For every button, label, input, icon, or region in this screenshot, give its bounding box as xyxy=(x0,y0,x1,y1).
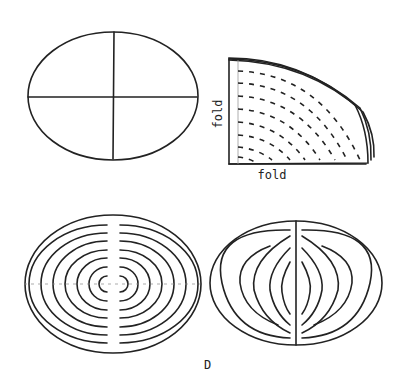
figure-caption: D xyxy=(204,358,211,372)
lens-cut-oval xyxy=(210,221,382,345)
concentric-cut-oval xyxy=(24,215,201,353)
oval-with-folds xyxy=(28,32,198,160)
fold-label-vertical: fold xyxy=(211,100,225,129)
folded-quarter: fold fold xyxy=(211,58,374,182)
fold-label-horizontal: fold xyxy=(258,168,287,182)
diagram-canvas: fold fold D xyxy=(0,0,396,389)
